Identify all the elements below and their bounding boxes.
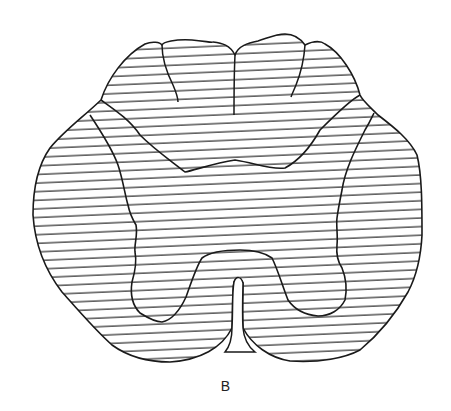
spinal-cord-cross-section-diagram bbox=[0, 0, 451, 411]
hatch-fill bbox=[0, 0, 451, 411]
figure-label: B bbox=[0, 378, 451, 394]
